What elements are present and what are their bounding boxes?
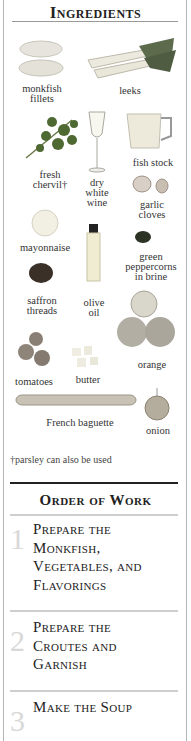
step-text: Make the Soup — [33, 698, 132, 717]
ingredient-label: oliveoil — [78, 298, 110, 318]
ingredient-label: leeks — [100, 86, 160, 96]
fish-stock-jug-image — [125, 110, 175, 152]
ingredients-heading: Ingredients — [0, 3, 191, 23]
ingredient-label: onion — [138, 426, 178, 436]
step-divider — [10, 610, 178, 612]
ingredient-label: greenpeppercornsin brine — [112, 252, 190, 282]
ingredient-label: freshchervil† — [20, 170, 80, 190]
ingredient-label: garliccloves — [122, 200, 182, 220]
leeks-image — [84, 36, 176, 81]
step-number: 2 — [10, 624, 25, 658]
ingredient-label: orange — [122, 360, 182, 370]
step-text: Prepare theMonkfish,Vegetables, andFlavo… — [33, 520, 142, 594]
section-divider — [10, 482, 178, 484]
baguette-image — [14, 393, 139, 407]
ingredient-label: butter — [68, 375, 108, 385]
order-of-work-heading: Order of Work — [0, 492, 191, 509]
step-number: 3 — [10, 704, 25, 738]
peppercorns-image — [135, 230, 151, 244]
step-divider — [10, 690, 178, 692]
footnote: †parsley can also be used — [10, 454, 112, 465]
garlic-image — [130, 172, 172, 194]
step-number: 1 — [10, 522, 25, 556]
monkfish-image — [18, 38, 64, 80]
ingredient-label: saffronthreads — [16, 296, 68, 316]
onion-image — [142, 386, 172, 422]
ingredient-label: drywhitewine — [72, 178, 122, 208]
ingredient-label: French baguette — [30, 418, 130, 428]
chervil-image — [22, 112, 78, 162]
heading-divider — [12, 21, 178, 22]
ingredient-label: fish stock — [122, 158, 184, 168]
section-divider — [10, 514, 178, 516]
ingredient-label: mayonnaise — [10, 243, 80, 253]
saffron-image — [28, 262, 54, 284]
ingredient-label: tomatoes — [6, 377, 62, 387]
butter-image — [68, 344, 102, 370]
olive-oil-bottle-image — [86, 224, 102, 282]
step-text: Prepare theCroutes andGarnish — [33, 618, 117, 674]
tomatoes-image — [14, 330, 54, 370]
orange-image — [114, 290, 180, 348]
wine-glass-image — [86, 110, 108, 174]
ingredient-label: monkfishfillets — [12, 84, 72, 104]
mayonnaise-image — [30, 208, 60, 238]
